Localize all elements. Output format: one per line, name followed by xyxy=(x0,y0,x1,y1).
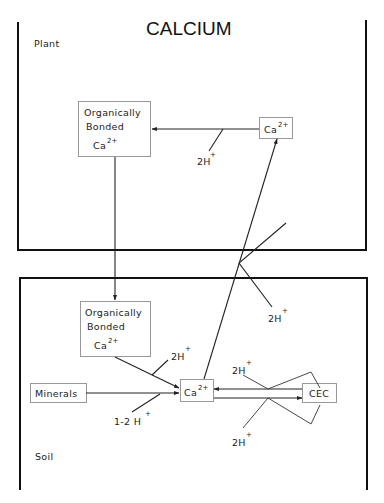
svg-text:+: + xyxy=(185,345,191,353)
plant-ca-ion: Ca xyxy=(264,124,277,135)
root-exchange-h-label: 2H + xyxy=(268,307,288,324)
svg-text:+: + xyxy=(210,151,216,159)
soil-organic-ca-node: Organically Bonded Ca 2+ xyxy=(81,302,151,357)
soil-ca-charge: 2+ xyxy=(198,384,208,392)
calcium-cycle-diagram: CALCIUM Plant Soil Organically Bonded Ca… xyxy=(0,0,384,503)
plant-uptake-h-branch xyxy=(209,129,223,151)
plant-organic-ca-node: Organically Bonded Ca 2+ xyxy=(79,102,151,157)
cec-upper-h-label: 2H + xyxy=(232,359,252,376)
plant-organic-charge: 2+ xyxy=(107,137,117,145)
plant-uptake-h-label: 2H + xyxy=(197,151,216,167)
plant-organic-line2: Bonded xyxy=(86,121,124,132)
soil-organic-charge: 2+ xyxy=(108,337,118,345)
soil-organic-h-branch xyxy=(152,360,168,375)
svg-text:2H: 2H xyxy=(171,351,185,362)
root-exchange-h-branch xyxy=(239,223,286,307)
minerals-node: Minerals xyxy=(31,384,87,403)
soil-ca-node: Ca 2+ xyxy=(181,380,214,402)
svg-text:+: + xyxy=(145,410,151,418)
cec-label: CEC xyxy=(309,388,329,399)
soil-ca-ion: Ca xyxy=(184,387,197,398)
svg-text:+: + xyxy=(246,431,252,439)
svg-text:+: + xyxy=(282,307,288,315)
soil-region-label: Soil xyxy=(35,451,53,462)
plant-region-frame xyxy=(18,20,366,250)
soil-organic-line1: Organically xyxy=(85,307,142,318)
svg-text:2H: 2H xyxy=(232,437,246,448)
svg-text:1-2 H: 1-2 H xyxy=(114,416,141,427)
minerals-h-label: 1-2 H + xyxy=(114,410,151,427)
svg-text:2H: 2H xyxy=(232,365,246,376)
diagram-title: CALCIUM xyxy=(146,18,232,39)
plant-organic-line1: Organically xyxy=(84,107,141,118)
soil-organic-line2: Bonded xyxy=(87,321,125,332)
plant-ca-node: Ca 2+ xyxy=(260,118,293,139)
svg-text:+: + xyxy=(246,359,252,367)
cec-lower-h-branch xyxy=(243,398,268,428)
svg-text:2H: 2H xyxy=(197,156,211,167)
soil-organic-h-label: 2H + xyxy=(171,345,191,362)
cec-lower-h-label: 2H + xyxy=(232,431,252,448)
minerals-label: Minerals xyxy=(35,388,77,399)
plant-organic-ion: Ca xyxy=(93,140,106,151)
soil-organic-ion: Ca xyxy=(94,340,107,351)
root-uptake-arrow xyxy=(204,139,277,379)
svg-text:2H: 2H xyxy=(268,313,282,324)
plant-region: Plant xyxy=(18,20,366,250)
mineralization-arrow xyxy=(115,357,179,388)
plant-ca-charge: 2+ xyxy=(278,121,288,129)
plant-region-label: Plant xyxy=(34,38,59,49)
cec-upper-h-branch xyxy=(243,375,268,389)
